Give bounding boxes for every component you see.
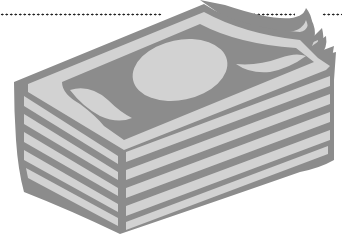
money-stack-icon [0, 0, 342, 242]
money-stack-illustration [0, 0, 342, 242]
